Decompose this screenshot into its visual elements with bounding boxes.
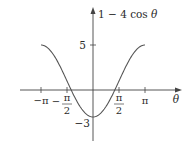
y-tick-label-5: 5 <box>79 39 86 51</box>
x-tick-label-neg-half-pi-den: 2 <box>64 105 70 116</box>
chart: −π − π 2 π 2 π θ 5 −3 1 − 4 cos θ <box>0 0 186 146</box>
x-tick-label-neg-half-pi-sign: − <box>52 96 60 107</box>
x-axis-label: θ <box>173 93 180 105</box>
x-tick-label-neg-half-pi-num: π <box>64 92 71 103</box>
y-axis-label: 1 − 4 cos θ <box>98 8 158 20</box>
x-tick-label-half-pi-num: π <box>116 92 123 103</box>
x-tick-label-pi: π <box>142 95 149 106</box>
y-axis-label-var: θ <box>151 8 158 20</box>
y-axis-arrow-icon <box>91 7 96 14</box>
x-tick-label-half-pi-den: 2 <box>116 105 122 116</box>
y-axis-label-prefix: 1 − 4 cos <box>98 8 151 20</box>
x-axis-arrow-icon <box>175 88 182 93</box>
x-tick-label-neg-pi: −π <box>34 95 49 106</box>
y-tick-label-neg-3: −3 <box>75 117 90 129</box>
